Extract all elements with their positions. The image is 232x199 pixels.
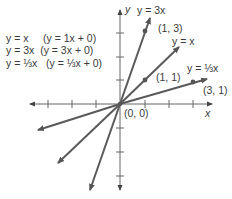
label-y-3x: y = 3x: [137, 4, 165, 16]
y-axis-label: y: [125, 3, 130, 15]
origin-label: (0, 0): [124, 107, 149, 119]
point-1-3: [143, 29, 148, 34]
x-axis-label: x: [205, 107, 210, 119]
point-1-1: [143, 78, 148, 83]
origin-point: [118, 102, 122, 106]
legend-row-y-third-x: y = ⅓x (y = ⅓x + 0): [6, 57, 102, 69]
point-3-1: [191, 80, 196, 85]
point-label-3-1: (3, 1): [203, 84, 228, 96]
label-y-third-x: y = ⅓x: [187, 62, 218, 74]
label-y-x: y = x: [172, 35, 194, 47]
legend-row-y-3x: y = 3x (y = 3x + 0): [6, 44, 93, 56]
legend-row-y-x: y = x (y = 1x + 0): [6, 32, 96, 44]
coordinate-plane: [0, 0, 232, 199]
point-label-1-1: (1, 1): [156, 71, 181, 83]
point-label-1-3: (1, 3): [158, 22, 183, 34]
